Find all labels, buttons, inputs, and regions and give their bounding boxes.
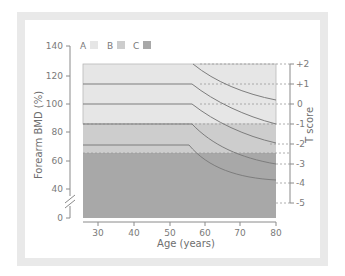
tscore-axis-title: T score <box>304 107 315 144</box>
svg-text:0: 0 <box>57 213 63 223</box>
svg-text:120: 120 <box>46 71 63 81</box>
y-axis-title: Forearm BMD (%) <box>33 91 44 179</box>
svg-text:0: 0 <box>297 99 303 109</box>
svg-text:80: 80 <box>270 228 282 238</box>
svg-text:+1: +1 <box>296 79 309 89</box>
legend-label-b: B <box>107 41 113 51</box>
svg-text:40: 40 <box>128 228 140 238</box>
y-axis <box>65 46 75 218</box>
svg-text:60: 60 <box>52 156 64 166</box>
legend-label-a: A <box>80 41 87 51</box>
legend-swatch-c <box>143 41 151 49</box>
svg-text:50: 50 <box>164 228 176 238</box>
svg-text:-3: -3 <box>296 159 305 169</box>
svg-text:-5: -5 <box>296 198 305 208</box>
legend-swatch-a <box>90 41 98 49</box>
band-b <box>83 124 276 153</box>
svg-text:40: 40 <box>52 184 64 194</box>
svg-text:60: 60 <box>199 228 211 238</box>
svg-text:140: 140 <box>46 41 63 51</box>
svg-text:+2: +2 <box>296 59 309 69</box>
tscore-axis <box>290 64 294 203</box>
x-axis <box>83 222 276 226</box>
legend-swatch-b <box>117 41 125 49</box>
svg-text:-4: -4 <box>296 178 305 188</box>
band-c <box>83 153 276 218</box>
svg-text:80: 80 <box>52 127 64 137</box>
legend-label-c: C <box>133 41 139 51</box>
bmd-chart: 140 120 100 80 60 40 0 Forearm BMD (%) 3… <box>0 0 345 276</box>
legend: A B C <box>80 41 151 51</box>
svg-text:100: 100 <box>46 99 63 109</box>
x-tick-labels: 30 40 50 60 70 80 <box>92 228 282 238</box>
x-axis-title: Age (years) <box>157 238 215 249</box>
svg-text:70: 70 <box>234 228 246 238</box>
svg-text:30: 30 <box>92 228 104 238</box>
y-tick-labels: 140 120 100 80 60 40 0 <box>46 41 63 223</box>
